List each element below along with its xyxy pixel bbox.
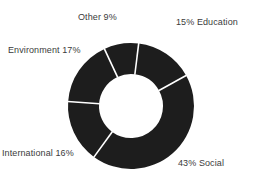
slice-label-environment: Environment 17% — [8, 45, 81, 56]
slice-label-other: Other 9% — [78, 12, 117, 23]
slice-label-social: 43% Social — [178, 158, 224, 169]
slice-label-international: International 16% — [2, 148, 74, 159]
slice-label-education: 15% Education — [176, 17, 238, 28]
donut-chart: Other 9% 15% Education Environment 17% I… — [0, 0, 256, 191]
